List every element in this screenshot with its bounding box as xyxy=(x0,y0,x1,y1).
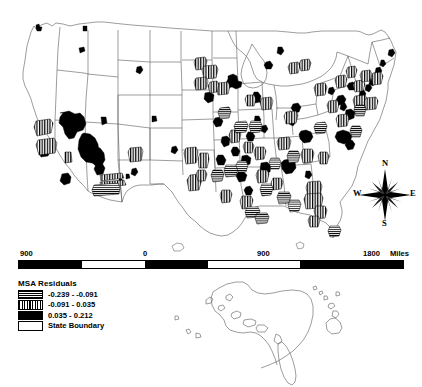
scalebar-label-0: 900 xyxy=(20,249,33,259)
legend-label-class-3: 0.035 - 0.212 xyxy=(48,311,93,320)
compass-rose: N S E W xyxy=(352,158,418,232)
scalebar-segment-1 xyxy=(19,261,82,268)
legend-swatch-vertical-hatch xyxy=(18,300,43,310)
legend-swatch-horizontal-hatch xyxy=(18,290,43,300)
legend-label-state-boundary: State Boundary xyxy=(48,321,104,330)
alaska-inset xyxy=(175,282,313,385)
scalebar-units-label: Miles xyxy=(390,249,409,259)
scalebar-labels: 900 0 900 1800 Miles xyxy=(0,249,422,260)
scalebar xyxy=(18,260,404,269)
scalebar-label-2: 900 xyxy=(257,249,270,259)
scalebar-label-3: 1800 xyxy=(363,249,380,259)
legend-title: MSA Residuals xyxy=(18,279,146,288)
legend-label-class-2: -0.091 - 0.035 xyxy=(48,300,95,309)
scalebar-segment-5 xyxy=(300,261,403,268)
compass-west-label: W xyxy=(353,188,362,198)
scalebar-segment-4 xyxy=(208,261,300,268)
legend-item-class-3: 0.035 - 0.212 xyxy=(14,310,146,321)
compass-north-label: N xyxy=(382,158,388,168)
legend-item-state-boundary: State Boundary xyxy=(14,321,146,332)
hawaii-inset xyxy=(313,286,342,334)
compass-east-label: E xyxy=(410,188,416,198)
msa-class-solid-black-layer xyxy=(36,24,395,195)
legend-swatch-state-boundary xyxy=(18,321,43,331)
map-legend: MSA Residuals -0.239 - -0.091 -0.091 - 0… xyxy=(14,279,146,337)
legend-swatch-solid-black xyxy=(18,311,43,321)
legend-item-class-1: -0.239 - -0.091 xyxy=(14,289,146,300)
scalebar-segment-3 xyxy=(145,261,208,268)
compass-south-label: S xyxy=(382,218,387,228)
legend-label-class-1: -0.239 - -0.091 xyxy=(48,290,98,299)
scalebar-segment-2 xyxy=(82,261,145,268)
scalebar-label-1: 0 xyxy=(143,249,147,259)
legend-item-class-2: -0.091 - 0.035 xyxy=(14,300,146,311)
msa-residuals-map-figure: 900 0 900 1800 Miles MSA Residuals -0.23… xyxy=(0,0,422,387)
